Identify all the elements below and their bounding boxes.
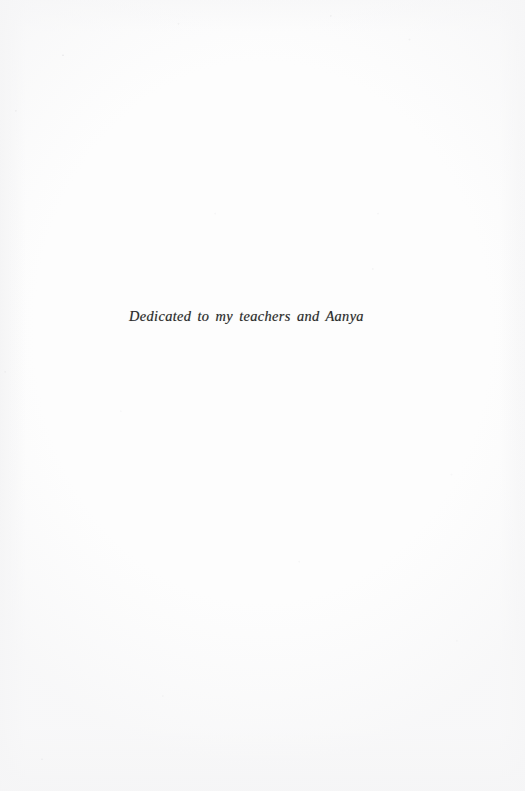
dedication-text: Dedicated to my teachers and Aanya bbox=[129, 306, 364, 327]
dedication-block: Dedicated to my teachers and Aanya bbox=[0, 306, 525, 327]
scanned-book-page: Dedicated to my teachers and Aanya bbox=[0, 0, 525, 791]
scan-vignette bbox=[0, 0, 525, 791]
paper-grain-texture bbox=[0, 0, 525, 791]
